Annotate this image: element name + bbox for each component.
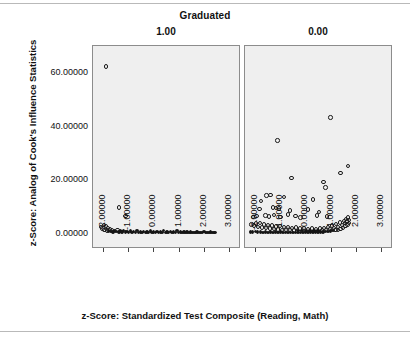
data-point — [268, 193, 272, 197]
data-point — [338, 171, 342, 175]
y-tick-label: 40.00000 — [32, 121, 88, 131]
panel-header-left: 1.00 — [92, 26, 240, 37]
data-point — [315, 213, 319, 217]
x-tick-label: -1.00000 — [122, 194, 132, 252]
data-point — [275, 138, 279, 142]
data-point — [289, 176, 293, 180]
y-tick-label: 60.00000 — [32, 67, 88, 77]
data-point — [104, 64, 108, 68]
x-tick-label: 1.00000 — [325, 194, 335, 252]
scatter-panel-left — [92, 45, 240, 248]
x-tick-label: -2.00000 — [249, 194, 259, 252]
x-tick-label: -2.00000 — [97, 194, 107, 252]
x-tick-label: -1.00000 — [274, 194, 284, 252]
x-tick-label: 0.00000 — [147, 194, 157, 252]
scatter-panel-right — [244, 45, 392, 248]
y-tick-label: 0.00000 — [32, 228, 88, 238]
x-axis-title: z-Score: Standardized Test Composite (Re… — [0, 310, 410, 321]
x-tick-label: 3.00000 — [223, 194, 233, 252]
y-tick-label: 20.00000 — [32, 174, 88, 184]
data-point — [293, 214, 297, 218]
data-point — [321, 180, 325, 184]
data-point — [323, 185, 327, 189]
y-axis-ticks: 0.0000020.0000040.0000060.00000 — [28, 0, 88, 341]
data-point — [311, 197, 315, 201]
data-point — [213, 231, 216, 234]
data-point — [328, 115, 332, 119]
x-tick-label: 1.00000 — [173, 194, 183, 252]
data-point — [117, 205, 121, 209]
x-tick-label: 3.00000 — [375, 194, 385, 252]
panel-header-right: 0.00 — [244, 26, 392, 37]
x-tick-label: 2.00000 — [350, 194, 360, 252]
data-point — [259, 199, 263, 203]
data-point — [267, 214, 271, 218]
data-point — [286, 212, 290, 216]
x-tick-label: 2.00000 — [198, 194, 208, 252]
x-tick-label: 0.00000 — [299, 194, 309, 252]
data-point — [346, 164, 350, 168]
